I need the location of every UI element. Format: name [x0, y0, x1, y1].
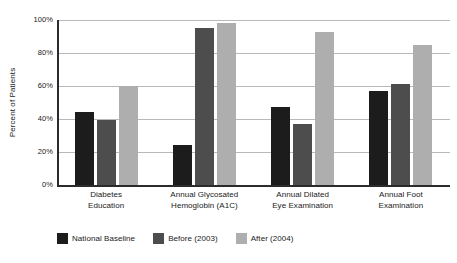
bar [97, 120, 116, 185]
x-axis-category-label-line: Annual Glycosated [155, 190, 253, 201]
x-axis-category-label: Annual GlycosatedHemoglobin (A1C) [155, 190, 253, 211]
bar [119, 86, 138, 185]
y-axis-tick-label: 40% [7, 115, 53, 123]
legend-item: Before (2003) [153, 233, 218, 244]
y-axis-tick-label: 100% [7, 16, 53, 24]
y-axis-tick-label: 0% [7, 181, 53, 189]
legend-swatch [153, 233, 164, 244]
bar [195, 28, 214, 185]
x-axis-category-label: Annual FootExamination [352, 190, 450, 211]
bar [391, 84, 410, 185]
x-axis-category-label-line: Hemoglobin (A1C) [155, 201, 253, 212]
legend-swatch [236, 233, 247, 244]
bar-group [352, 20, 450, 185]
bar-group [254, 20, 352, 185]
legend-item: After (2004) [236, 233, 294, 244]
bar-group-bars [75, 20, 138, 185]
y-axis-tick-label: 80% [7, 49, 53, 57]
bar-group-bars [271, 20, 334, 185]
x-axis-category-label-line: Diabetes [57, 190, 155, 201]
x-axis-category-label: DiabetesEducation [57, 190, 155, 211]
x-axis-category-label-line: Eye Examination [254, 201, 352, 212]
bar [271, 107, 290, 185]
chart-legend: National BaselineBefore (2003)After (200… [57, 233, 312, 244]
bar [413, 45, 432, 185]
bar-group [155, 20, 253, 185]
bar [293, 124, 312, 185]
bar [369, 91, 388, 185]
y-axis-tick-labels: 100%80%60%40%20%0% [0, 20, 53, 186]
legend-label: After (2004) [251, 233, 294, 244]
bar [173, 145, 192, 185]
bar-group [57, 20, 155, 185]
legend-label: National Baseline [72, 233, 135, 244]
bar [217, 23, 236, 185]
bar [75, 112, 94, 185]
x-axis-category-label-line: Education [57, 201, 155, 212]
x-axis-category-label-line: Annual Dilated [254, 190, 352, 201]
bar-group-bars [369, 20, 432, 185]
bar [315, 32, 334, 185]
x-axis-category-label-line: Annual Foot [352, 190, 450, 201]
bar-chart: Percent of Patients 100%80%60%40%20%0% D… [0, 0, 457, 263]
legend-swatch [57, 233, 68, 244]
bar-group-bars [173, 20, 236, 185]
x-axis-category-labels: DiabetesEducationAnnual GlycosatedHemogl… [57, 190, 450, 211]
y-axis-tick-label: 60% [7, 82, 53, 90]
x-axis-line [57, 185, 450, 187]
legend-item: National Baseline [57, 233, 135, 244]
x-axis-category-label: Annual DilatedEye Examination [254, 190, 352, 211]
legend-label: Before (2003) [168, 233, 218, 244]
x-axis-category-label-line: Examination [352, 201, 450, 212]
y-axis-tick-label: 20% [7, 148, 53, 156]
bar-groups [57, 20, 450, 185]
